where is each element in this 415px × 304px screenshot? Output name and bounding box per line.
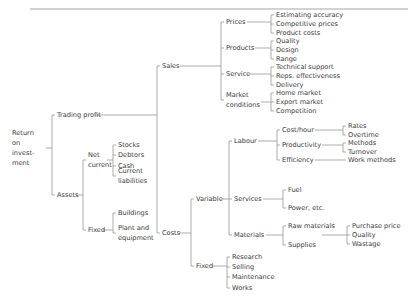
node-buildings: Buildings [118,209,149,217]
node-supplies: Supplies [288,241,316,249]
node-market-conditions: Marketconditions [226,91,260,109]
node-raw-materials: Raw materials [288,222,335,230]
node-labour: Labour [234,137,257,145]
node-fixed-assets-line-0: Fixed [88,226,105,234]
node-debtors-line-0: Debtors [118,151,145,159]
node-maintenance: Maintenance [232,273,274,281]
node-design: Design [276,46,299,54]
connector-market-conditions [261,93,274,111]
node-fixed-assets: Fixed [88,226,105,234]
node-rates-line-0: Rates [348,122,367,130]
connector-service [250,67,274,85]
node-labels: Returnoninvest-mentTrading profitAssetsN… [12,11,400,292]
connector-root [46,115,55,195]
connector-materials [266,226,286,245]
node-quality-mat-line-0: Quality [352,231,376,239]
node-efficiency-line-0: Efficiency [282,156,314,164]
tree-canvas: Returnoninvest-mentTrading profitAssetsN… [0,0,415,304]
node-rates: Rates [348,122,367,130]
node-plant-equipment: Plant andequipment [118,224,154,242]
node-prices-line-0: Prices [226,18,246,26]
node-research-line-0: Research [232,253,262,261]
connector-services [263,190,286,208]
node-market-conditions-line-0: Market [226,91,249,99]
node-labour-line-0: Labour [234,137,257,145]
node-market-conditions-line-1: conditions [226,101,260,109]
node-stocks-line-0: Stocks [118,141,140,149]
node-stocks: Stocks [118,141,140,149]
node-estimating-accuracy: Estimating accuracy [276,11,343,19]
node-product-costs-line-0: Product costs [276,29,321,37]
node-cost-hour: Cost/hour [282,126,314,134]
connector-sales [180,22,224,100]
node-net-current-line-1: current [88,161,112,169]
node-delivery-line-0: Delivery [276,81,303,89]
node-works: Works [232,284,253,292]
connector-costs [179,199,194,266]
node-current-liabilities-line-0: Current [118,167,143,175]
connector-labour [258,130,280,160]
node-export-market-line-0: Export market [276,98,323,106]
node-variable: Variable [196,195,223,203]
node-efficiency: Efficiency [282,156,314,164]
node-trading-profit: Trading profit [56,111,101,119]
node-sales-line-0: Sales [162,62,180,70]
node-competition: Competition [276,107,316,115]
node-wastage: Wastage [352,240,380,248]
node-design-line-0: Design [276,46,299,54]
node-services: Services [234,195,262,203]
node-root-line-1: on [12,139,20,147]
node-product-costs: Product costs [276,29,321,37]
node-plant-equipment-line-1: equipment [118,234,154,242]
node-quality-mat: Quality [352,231,376,239]
node-reps-effectiveness-line-0: Reps. effectiveness [276,72,340,80]
node-current-liabilities: Currentliabilities [118,167,148,185]
connector-cost-hour [315,126,346,135]
node-turnover-line-0: Turnover [347,148,377,156]
node-maintenance-line-0: Maintenance [232,273,274,281]
node-range-line-0: Range [276,55,297,63]
node-overtime: Overtime [348,131,379,139]
node-services-line-0: Services [234,195,262,203]
node-home-market: Home market [276,89,321,97]
node-service: Service [226,70,250,78]
node-turnover: Turnover [347,148,377,156]
node-variable-line-0: Variable [196,195,223,203]
node-plant-equipment-line-0: Plant and [118,224,149,232]
node-competitive-prices-line-0: Competitive prices [276,20,339,28]
node-home-market-line-0: Home market [276,89,321,97]
node-debtors: Debtors [118,151,145,159]
node-power-etc-line-0: Power, etc. [288,204,325,212]
node-quality-prod-line-0: Quality [276,37,300,45]
node-work-methods: Work methods [348,156,396,164]
node-fixed-costs-line-0: Fixed [196,262,213,270]
node-assets-line-0: Assets [57,191,79,199]
node-wastage-line-0: Wastage [352,240,380,248]
node-fuel: Fuel [288,186,302,194]
node-delivery: Delivery [276,81,303,89]
node-root: Returnoninvest-ment [12,129,35,167]
node-materials: Materials [234,231,265,239]
node-work-methods-line-0: Work methods [348,156,396,164]
node-methods: Methods [348,139,377,147]
node-prices: Prices [226,18,246,26]
node-costs-line-0: Costs [162,229,181,237]
node-sales: Sales [162,62,180,70]
connector-variable [222,141,232,235]
node-fixed-costs: Fixed [196,262,213,270]
node-power-etc: Power, etc. [288,204,325,212]
node-selling-line-0: Selling [232,263,254,271]
node-works-line-0: Works [232,284,253,292]
node-research: Research [232,253,262,261]
node-methods-line-0: Methods [348,139,377,147]
node-costs: Costs [162,229,181,237]
org-tree-diagram: Returnoninvest-mentTrading profitAssetsN… [0,0,415,304]
connector-prices [247,15,274,33]
node-materials-line-0: Materials [234,231,265,239]
node-estimating-accuracy-line-0: Estimating accuracy [276,11,343,19]
node-raw-materials-line-0: Raw materials [288,222,335,230]
node-overtime-line-0: Overtime [348,131,379,139]
node-competition-line-0: Competition [276,107,316,115]
node-technical-support: Technical support [275,63,334,71]
node-root-line-0: Return [12,129,34,137]
